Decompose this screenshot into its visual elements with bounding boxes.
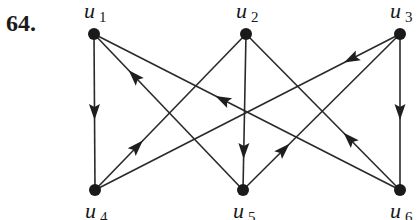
node-u3 bbox=[394, 28, 406, 40]
node-u2 bbox=[240, 28, 252, 40]
node-label-u3: u3 bbox=[390, 0, 413, 25]
node-u5 bbox=[237, 184, 249, 196]
edge-u4-to-u2 bbox=[95, 34, 246, 190]
node-label-u2: u2 bbox=[236, 0, 259, 25]
node-label-u4: u4 bbox=[85, 198, 108, 220]
arrowhead-icon bbox=[215, 96, 232, 108]
arrowhead-icon bbox=[344, 50, 361, 62]
arrowheads-layer bbox=[89, 50, 406, 159]
directed-graph-diagram: 64. u1u2u3u4u5u6 bbox=[0, 0, 419, 220]
problem-number: 64. bbox=[6, 10, 36, 36]
node-u1 bbox=[88, 28, 100, 40]
node-u6 bbox=[394, 184, 406, 196]
edge-u5-to-u1 bbox=[94, 34, 243, 190]
node-u4 bbox=[89, 184, 101, 196]
node-label-u5: u5 bbox=[233, 198, 256, 220]
node-label-u6: u6 bbox=[390, 198, 413, 220]
node-label-u1: u1 bbox=[84, 0, 107, 25]
